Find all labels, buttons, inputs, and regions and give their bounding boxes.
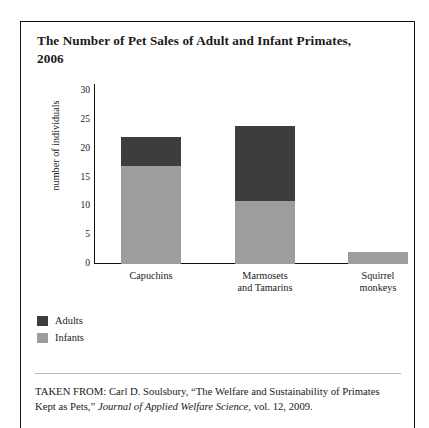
- source-suffix: , vol. 12, 2009.: [248, 400, 312, 412]
- source-journal-title: Journal of Applied Welfare Science: [98, 400, 248, 412]
- y-axis-line: [94, 84, 95, 264]
- legend-item-adults: Adults: [37, 314, 84, 329]
- category-label-1: Capuchins: [97, 270, 205, 282]
- bar-segment-infants: [348, 252, 408, 264]
- y-tick-25: 25: [62, 114, 90, 124]
- category-label-2: Marmosetsand Tamarins: [211, 270, 319, 295]
- chart-legend: Adults Infants: [37, 314, 84, 348]
- y-tick-0: 0: [62, 258, 90, 268]
- bar-marmosets-and-tamarins: [235, 126, 295, 264]
- bar-segment-adults: [235, 126, 295, 201]
- source-divider: [35, 373, 401, 374]
- y-axis-title: number of individuals: [50, 76, 61, 216]
- legend-swatch-infants-icon: [37, 333, 48, 343]
- y-tick-30: 30: [62, 85, 90, 95]
- bar-segment-infants: [235, 201, 295, 264]
- figure-frame: The Number of Pet Sales of Adult and Inf…: [20, 21, 415, 428]
- bar-squirrel-monkeys: [348, 252, 408, 264]
- figure-title: The Number of Pet Sales of Adult and Inf…: [37, 32, 367, 67]
- legend-item-infants: Infants: [37, 331, 84, 346]
- y-tick-10: 10: [62, 200, 90, 210]
- legend-swatch-adults-icon: [37, 316, 48, 326]
- category-label-3: Squirrelmonkeys: [324, 270, 429, 295]
- y-tick-5: 5: [62, 229, 90, 239]
- chart-plot-area: number of individuals 051015202530 Capuc…: [21, 78, 416, 293]
- source-citation: TAKEN FROM: Carl D. Soulsbury, “The Welf…: [35, 384, 403, 415]
- legend-label-adults: Adults: [55, 314, 83, 329]
- legend-label-infants: Infants: [55, 331, 84, 346]
- bar-segment-infants: [121, 166, 181, 264]
- bar-segment-adults: [121, 137, 181, 166]
- bar-capuchins: [121, 137, 181, 264]
- y-tick-20: 20: [62, 143, 90, 153]
- y-tick-15: 15: [62, 172, 90, 182]
